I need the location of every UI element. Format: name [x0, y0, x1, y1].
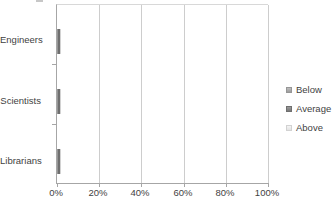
segment-librarians-above	[60, 149, 61, 174]
legend: Below Average Above	[286, 80, 331, 137]
category-label-engineers: Engineers	[0, 34, 49, 45]
x-axis-label-80: 80%	[205, 187, 245, 198]
x-axis-label-100: 100%	[247, 187, 287, 198]
y-tick	[52, 64, 57, 65]
bar-engineers	[57, 29, 61, 54]
stacked-bar-chart: Engineers Scientists Librarians 0% 20% 4…	[0, 0, 333, 209]
cropped-text-artifact	[36, 0, 43, 2]
gridline-40	[141, 5, 142, 183]
gridline-20	[99, 5, 100, 183]
x-axis-label-20: 20%	[78, 187, 118, 198]
legend-label-below: Below	[296, 84, 322, 95]
category-label-scientists: Scientists	[0, 95, 49, 106]
bar-scientists	[57, 89, 61, 114]
x-axis-label-40: 40%	[120, 187, 160, 198]
legend-item-above: Above	[286, 118, 331, 137]
segment-engineers-above	[60, 29, 61, 54]
legend-label-average: Average	[296, 103, 331, 114]
legend-item-below: Below	[286, 80, 331, 99]
segment-scientists-above	[60, 89, 61, 114]
x-axis-label-0: 0%	[36, 187, 76, 198]
legend-swatch-average-icon	[286, 106, 292, 112]
bar-librarians	[57, 149, 61, 174]
gridline-60	[184, 5, 185, 183]
gridline-100	[268, 5, 269, 183]
legend-swatch-below-icon	[286, 87, 292, 93]
y-tick	[52, 124, 57, 125]
plot-area	[56, 4, 268, 184]
legend-item-average: Average	[286, 99, 331, 118]
legend-swatch-above-icon	[286, 125, 292, 131]
gridline-80	[226, 5, 227, 183]
category-label-librarians: Librarians	[0, 155, 49, 166]
x-axis-label-60: 60%	[163, 187, 203, 198]
legend-label-above: Above	[296, 122, 323, 133]
